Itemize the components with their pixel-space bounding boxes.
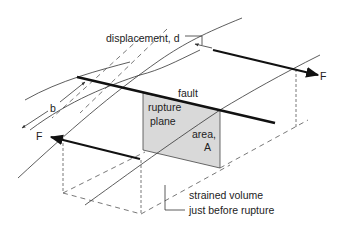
strained-volume-label-2: just before rupture (188, 204, 274, 216)
force-left-label: F (36, 130, 42, 142)
force-right-label: F (320, 70, 326, 82)
strained-volume-label-1: strained volume (189, 189, 263, 201)
area-label-2: A (204, 141, 211, 153)
fault-label: fault (178, 87, 198, 99)
force-arrow-right (213, 50, 318, 75)
width-b-label: b (50, 102, 56, 114)
rupture-plane-label-2: plane (150, 115, 176, 127)
rupture-plane-label-1: rupture (148, 101, 181, 113)
area-label-1: area, (192, 128, 216, 140)
strained-volume-pointer (165, 185, 185, 210)
fault-diagram: displacement, d fault rupture plane area… (0, 0, 341, 232)
displacement-label: displacement, d (106, 32, 180, 44)
force-arrow-left (51, 137, 140, 159)
